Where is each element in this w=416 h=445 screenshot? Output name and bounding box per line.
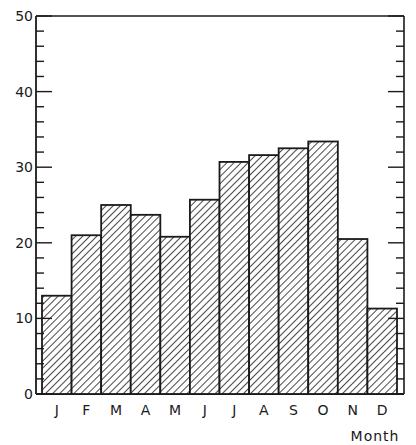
bar-8 [279, 148, 309, 394]
y-tick-label: 30 [15, 159, 33, 175]
y-tick-label: 50 [15, 8, 33, 24]
bar-7 [249, 155, 279, 394]
x-tick-label: J [54, 402, 59, 418]
x-tick-label: O [318, 402, 329, 418]
bar-10 [338, 239, 368, 394]
x-tick-label: A [141, 402, 151, 418]
y-tick-label: 40 [15, 84, 33, 100]
bar-11 [367, 309, 397, 394]
bar-1 [72, 235, 102, 394]
x-tick-label: S [289, 402, 298, 418]
x-axis-labels: JFMAMJJASOND [54, 402, 388, 418]
x-tick-label: D [377, 402, 388, 418]
bar-3 [131, 215, 161, 394]
x-tick-label: J [231, 402, 236, 418]
bars-group [42, 141, 397, 394]
bar-5 [190, 200, 220, 394]
bar-9 [308, 141, 338, 394]
bar-0 [42, 296, 72, 394]
bar-4 [160, 237, 190, 394]
y-tick-label: 10 [15, 310, 33, 326]
x-tick-label: M [110, 402, 122, 418]
y-tick-label: 20 [15, 235, 33, 251]
x-tick-label: F [82, 402, 90, 418]
bar-2 [101, 205, 131, 394]
x-tick-label: A [259, 402, 269, 418]
bar-chart: 01020304050 JFMAMJJASOND Month [0, 0, 416, 445]
y-axis-labels: 01020304050 [15, 8, 33, 402]
x-tick-label: N [347, 402, 357, 418]
x-tick-label: J [202, 402, 207, 418]
y-tick-label: 0 [24, 386, 33, 402]
bar-6 [220, 162, 250, 394]
x-tick-label: M [169, 402, 181, 418]
x-axis-title: Month [351, 428, 400, 444]
